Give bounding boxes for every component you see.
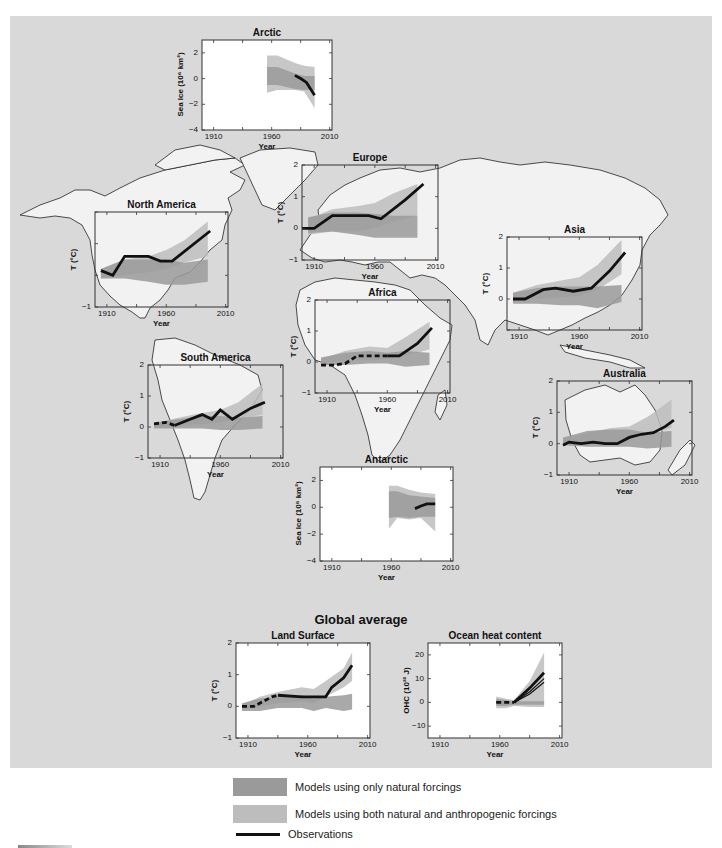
chart-title: Ocean heat content xyxy=(428,630,562,641)
y-axis-label: T (°C) xyxy=(276,165,285,260)
y-tick-label: 20 xyxy=(412,650,424,659)
chart-ocean-heat-content: Ocean heat content20100−10191019602010Ye… xyxy=(428,643,562,738)
x-tick-label: 1910 xyxy=(148,460,172,469)
x-tick-label: 2010 xyxy=(214,309,238,318)
y-tick-label: 2 xyxy=(186,48,198,57)
y-tick-label: 0 xyxy=(186,74,198,83)
y-axis-label: T (°C) xyxy=(531,381,540,475)
y-tick-label: −1 xyxy=(220,733,232,742)
chart-title: South America xyxy=(148,352,283,363)
observations-line-swatch xyxy=(236,833,280,836)
y-tick-label: 2 xyxy=(541,376,553,385)
y-tick-label: −4 xyxy=(304,556,316,565)
x-tick-label: 1910 xyxy=(557,477,581,486)
y-tick-label: 2 xyxy=(304,475,316,484)
x-tick-label: 1910 xyxy=(320,563,344,572)
y-tick-label: 2 xyxy=(286,160,298,169)
x-axis-label: Year xyxy=(302,272,438,281)
y-axis-label: T (°C) xyxy=(481,237,490,330)
chart-australia: Australia210−1191019602010YearT (°C) xyxy=(557,381,692,475)
y-axis-label: T (°C) xyxy=(210,643,219,738)
chart-title: Australia xyxy=(557,368,692,379)
x-tick-label: 2010 xyxy=(548,740,572,749)
chart-title: Africa xyxy=(315,287,450,298)
x-tick-label: 2010 xyxy=(439,563,463,572)
x-tick-label: 2010 xyxy=(269,460,293,469)
y-tick-label: 2 xyxy=(299,295,311,304)
x-tick-label: 1910 xyxy=(202,132,226,141)
x-tick-label: 1960 xyxy=(617,477,641,486)
anthropogenic-band-swatch xyxy=(233,805,287,823)
y-axis-label: T (°C) xyxy=(69,212,78,307)
y-tick-label: 2 xyxy=(220,638,232,647)
chart-title: Europe xyxy=(302,152,438,163)
x-tick-label: 2010 xyxy=(678,477,702,486)
y-tick-label: 0 xyxy=(299,357,311,366)
legend-observations-label: Observations xyxy=(288,828,353,840)
chart-africa: Africa210−1191019602010YearT (°C) xyxy=(315,300,450,393)
chart-arctic: Arctic20−2−4191019602010YearSea Ice (10⁶… xyxy=(202,40,332,130)
y-tick-label: 1 xyxy=(286,192,298,201)
y-tick-label: −1 xyxy=(299,388,311,397)
y-tick-label: 0 xyxy=(412,697,424,706)
x-tick-label: 2010 xyxy=(628,332,652,341)
x-tick-label: 1960 xyxy=(379,563,403,572)
chart-title: Land Surface xyxy=(236,630,370,641)
legend-natural-label: Models using only natural forcings xyxy=(295,781,461,793)
chart-land-surface: Land Surface210−1191019602010YearT (°C) xyxy=(236,643,370,738)
x-tick-label: 1960 xyxy=(260,132,284,141)
y-tick-label: 1 xyxy=(299,326,311,335)
natural-band-swatch xyxy=(233,778,287,796)
y-tick-label: 0 xyxy=(491,294,503,303)
x-tick-label: 1960 xyxy=(567,332,591,341)
legend-item-natural: Models using only natural forcings xyxy=(233,778,461,796)
global-average-title: Global average xyxy=(0,612,722,627)
x-tick-label: 1910 xyxy=(428,740,452,749)
y-tick-label: 2 xyxy=(132,360,144,369)
y-tick-label: 1 xyxy=(132,391,144,400)
x-tick-label: 1960 xyxy=(154,309,178,318)
y-tick-label: 0 xyxy=(220,701,232,710)
x-tick-label: 1960 xyxy=(375,395,399,404)
chart-antarctic: Antarctic20−2−4191019602010YearSea Ice (… xyxy=(320,467,453,561)
x-axis-label: Year xyxy=(315,405,450,414)
chart-south-america: South America210−1191019602010YearT (°C) xyxy=(148,365,283,458)
x-tick-label: 1910 xyxy=(236,740,260,749)
y-tick-label: 2 xyxy=(491,232,503,241)
x-axis-label: Year xyxy=(507,342,642,351)
chart-title: Asia xyxy=(507,224,642,235)
x-axis-label: Year xyxy=(148,470,283,479)
chart-title: North America xyxy=(95,199,228,210)
x-axis-label: Year xyxy=(236,750,370,759)
x-tick-label: 2010 xyxy=(318,132,342,141)
y-tick-label: 0 xyxy=(541,439,553,448)
y-tick-label: 0 xyxy=(286,223,298,232)
chart-europe: Europe210−1191019602010YearT (°C) xyxy=(302,165,438,260)
y-axis-label: Sea Ice (10⁶ km²) xyxy=(294,467,303,561)
x-axis-label: Year xyxy=(557,487,692,496)
y-axis-label: Sea Ice (10⁶ km²) xyxy=(176,40,185,130)
chart-asia: Asia210191019602010YearT (°C) xyxy=(507,237,642,330)
natural-band xyxy=(101,260,208,285)
x-axis-label: Year xyxy=(202,142,332,151)
x-tick-label: 2010 xyxy=(424,262,448,271)
x-tick-label: 1960 xyxy=(363,262,387,271)
y-tick-label: 10 xyxy=(412,674,424,683)
legend-item-both: Models using both natural and anthropoge… xyxy=(233,805,557,823)
y-tick-label: −2 xyxy=(304,529,316,538)
x-tick-label: 2010 xyxy=(356,740,380,749)
x-axis-label: Year xyxy=(428,750,562,759)
x-axis-label: Year xyxy=(95,319,228,328)
y-axis-label: T (°C) xyxy=(289,300,298,393)
y-tick-label: −1 xyxy=(132,453,144,462)
x-tick-label: 2010 xyxy=(436,395,460,404)
x-tick-label: 1910 xyxy=(315,395,339,404)
y-tick-label: 0 xyxy=(132,422,144,431)
x-tick-label: 1910 xyxy=(507,332,531,341)
y-axis-label: T (°C) xyxy=(122,365,131,458)
y-tick-label: −10 xyxy=(412,721,424,730)
y-tick-label: −4 xyxy=(186,125,198,134)
chart-north-america: North America−1191019602010YearT (°C) xyxy=(95,212,228,307)
y-tick-label: 0 xyxy=(304,502,316,511)
y-tick-label: −1 xyxy=(79,302,91,311)
